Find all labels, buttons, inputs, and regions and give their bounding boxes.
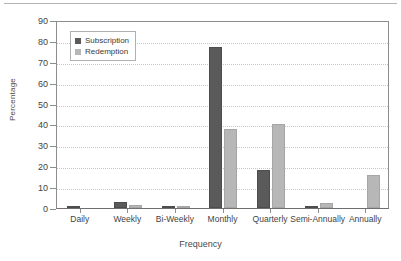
y-axis-tick-label: 60 <box>22 79 48 89</box>
x-axis-tick-label: Bi-Weekly <box>156 214 194 224</box>
y-axis-tick-label: 80 <box>22 37 48 47</box>
x-axis-tick-label: Monthly <box>208 214 238 224</box>
x-axis-tick <box>175 209 176 213</box>
y-axis-title: Percentage <box>8 55 17 145</box>
bar-subscription <box>67 206 80 208</box>
legend-label-redemption: Redemption <box>85 47 128 57</box>
legend-swatch-subscription <box>75 38 81 44</box>
legend-item-subscription: Subscription <box>75 35 129 46</box>
bar-group <box>200 22 248 208</box>
x-axis-tick <box>365 209 366 213</box>
x-axis-tick-label: Daily <box>70 214 89 224</box>
y-axis-tick-label: 20 <box>22 162 48 172</box>
bar-subscription <box>209 47 222 208</box>
bar-subscription <box>114 202 127 208</box>
bar-redemption <box>177 206 190 208</box>
x-axis-tick-label: Semi-Annually <box>290 214 345 224</box>
bar-group <box>152 22 200 208</box>
bar-group <box>342 22 390 208</box>
bar-redemption <box>129 205 142 208</box>
legend: Subscription Redemption <box>70 31 136 61</box>
x-axis-tick-label: Quarterly <box>253 214 288 224</box>
y-axis-tick-label: 40 <box>22 120 48 130</box>
bar-subscription <box>257 170 270 208</box>
y-axis-tick-label: 50 <box>22 100 48 110</box>
legend-label-subscription: Subscription <box>85 36 129 46</box>
x-axis-tick <box>270 209 271 213</box>
x-axis-tick-label: Weekly <box>113 214 141 224</box>
x-axis-tick-label: Annually <box>349 214 382 224</box>
legend-swatch-redemption <box>75 49 81 55</box>
y-axis-tick-label: 10 <box>22 183 48 193</box>
bar-chart: Percentage 0102030405060708090 DailyWeek… <box>0 0 401 261</box>
bar-group <box>247 22 295 208</box>
x-axis-tick <box>223 209 224 213</box>
legend-item-redemption: Redemption <box>75 46 129 57</box>
bar-redemption <box>224 129 237 208</box>
bar-subscription <box>305 206 318 208</box>
bar-redemption <box>367 175 380 208</box>
bar-redemption <box>272 124 285 208</box>
y-axis-tick-label: 0 <box>22 204 48 214</box>
bar-subscription <box>162 206 175 208</box>
x-axis-tick <box>127 209 128 213</box>
bar-redemption <box>320 203 333 208</box>
x-axis-title: Frequency <box>0 239 401 249</box>
x-axis-tick <box>318 209 319 213</box>
bar-group <box>295 22 343 208</box>
x-axis-tick <box>80 209 81 213</box>
y-axis-tick-label: 30 <box>22 141 48 151</box>
y-axis-tick <box>50 209 56 210</box>
y-axis-tick-label: 90 <box>22 16 48 26</box>
y-axis-tick-label: 70 <box>22 58 48 68</box>
